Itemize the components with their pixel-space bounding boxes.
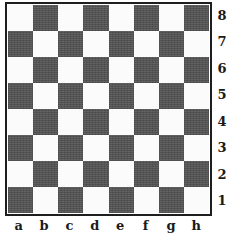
square-a4 xyxy=(8,109,33,135)
square-b6 xyxy=(33,57,58,83)
square-g2 xyxy=(159,161,184,187)
square-h1 xyxy=(184,187,209,213)
square-e1 xyxy=(109,187,134,213)
square-e5 xyxy=(109,83,134,109)
square-a5 xyxy=(8,83,33,109)
square-f2 xyxy=(134,161,159,187)
square-d8 xyxy=(83,5,108,31)
rank-label-8: 8 xyxy=(214,2,230,29)
square-c1 xyxy=(58,187,83,213)
square-b5 xyxy=(33,83,58,109)
chessboard xyxy=(8,5,209,213)
square-c7 xyxy=(58,31,83,57)
rank-label-7: 7 xyxy=(214,29,230,56)
file-label-e: e xyxy=(108,216,133,234)
square-b7 xyxy=(33,31,58,57)
square-h4 xyxy=(184,109,209,135)
square-a6 xyxy=(8,57,33,83)
square-c8 xyxy=(58,5,83,31)
square-b3 xyxy=(33,135,58,161)
file-label-a: a xyxy=(6,216,31,234)
square-e8 xyxy=(109,5,134,31)
square-d3 xyxy=(83,135,108,161)
square-g8 xyxy=(159,5,184,31)
square-c5 xyxy=(58,83,83,109)
square-a2 xyxy=(8,161,33,187)
cropped-caption-text xyxy=(2,240,228,248)
square-b1 xyxy=(33,187,58,213)
file-labels: abcdefgh xyxy=(6,216,209,234)
rank-label-1: 1 xyxy=(214,188,230,215)
square-h3 xyxy=(184,135,209,161)
square-h7 xyxy=(184,31,209,57)
square-f6 xyxy=(134,57,159,83)
chessboard-frame xyxy=(5,2,212,216)
square-c4 xyxy=(58,109,83,135)
square-h8 xyxy=(184,5,209,31)
square-g3 xyxy=(159,135,184,161)
rank-label-3: 3 xyxy=(214,135,230,162)
square-a3 xyxy=(8,135,33,161)
square-e6 xyxy=(109,57,134,83)
file-label-d: d xyxy=(82,216,107,234)
square-g7 xyxy=(159,31,184,57)
file-label-f: f xyxy=(133,216,158,234)
file-label-h: h xyxy=(184,216,209,234)
square-d6 xyxy=(83,57,108,83)
square-g6 xyxy=(159,57,184,83)
square-g5 xyxy=(159,83,184,109)
square-f5 xyxy=(134,83,159,109)
square-a1 xyxy=(8,187,33,213)
rank-labels: 87654321 xyxy=(214,2,230,214)
square-a8 xyxy=(8,5,33,31)
square-f3 xyxy=(134,135,159,161)
file-label-c: c xyxy=(57,216,82,234)
square-a7 xyxy=(8,31,33,57)
file-label-b: b xyxy=(31,216,56,234)
square-b2 xyxy=(33,161,58,187)
square-c2 xyxy=(58,161,83,187)
square-h6 xyxy=(184,57,209,83)
square-g1 xyxy=(159,187,184,213)
square-d5 xyxy=(83,83,108,109)
square-h5 xyxy=(184,83,209,109)
square-h2 xyxy=(184,161,209,187)
rank-label-6: 6 xyxy=(214,55,230,82)
square-c3 xyxy=(58,135,83,161)
rank-label-5: 5 xyxy=(214,82,230,109)
square-g4 xyxy=(159,109,184,135)
square-f7 xyxy=(134,31,159,57)
rank-label-2: 2 xyxy=(214,161,230,188)
square-d2 xyxy=(83,161,108,187)
square-f4 xyxy=(134,109,159,135)
square-c6 xyxy=(58,57,83,83)
square-b4 xyxy=(33,109,58,135)
file-label-g: g xyxy=(158,216,183,234)
square-d4 xyxy=(83,109,108,135)
square-e7 xyxy=(109,31,134,57)
rank-label-4: 4 xyxy=(214,108,230,135)
square-d1 xyxy=(83,187,108,213)
square-e3 xyxy=(109,135,134,161)
square-f1 xyxy=(134,187,159,213)
square-b8 xyxy=(33,5,58,31)
square-e2 xyxy=(109,161,134,187)
square-e4 xyxy=(109,109,134,135)
square-d7 xyxy=(83,31,108,57)
square-f8 xyxy=(134,5,159,31)
